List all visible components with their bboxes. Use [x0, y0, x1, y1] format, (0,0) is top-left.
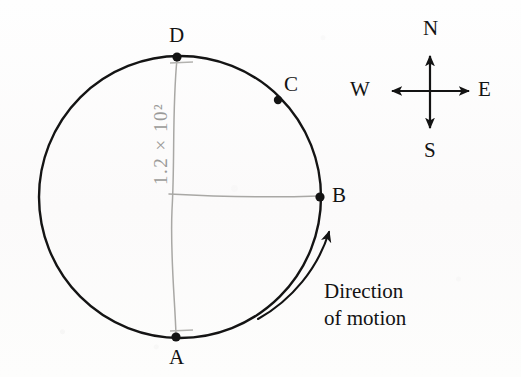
direction-caption-line-2: of motion [324, 305, 406, 332]
compass-label-east: E [478, 79, 491, 100]
direction-caption-line-1: Direction [324, 278, 406, 305]
point-dot-c [274, 96, 282, 104]
point-dot-a [171, 332, 180, 341]
point-label-b: B [332, 185, 346, 206]
diagram-vector-layer [0, 0, 521, 377]
pencil-horizontal-radius [169, 194, 319, 197]
direction-of-motion-caption: Direction of motion [324, 278, 406, 332]
point-label-d: D [169, 25, 184, 46]
point-label-c: C [284, 74, 298, 95]
compass-label-west: W [350, 79, 370, 100]
pencil-tick-bottom [170, 330, 193, 331]
circular-motion-figure: D C B A N S E W 1.2 × 10² Direction of m… [0, 0, 521, 377]
point-label-a: A [169, 347, 184, 368]
point-dot-b [315, 192, 324, 201]
pencil-vertical-chord [172, 59, 177, 335]
point-dot-d [172, 52, 181, 61]
compass-label-south: S [424, 140, 436, 161]
compass-label-north: N [423, 18, 438, 39]
pencil-tick-top [170, 62, 193, 63]
